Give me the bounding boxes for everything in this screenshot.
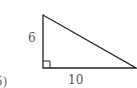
horizontal-leg-label: 10 [68,74,83,86]
vertical-leg-label: 6 [28,32,36,44]
triangle-outline [43,15,136,68]
right-angle-marker [43,61,50,68]
option-label-partial: 5) [0,76,7,88]
